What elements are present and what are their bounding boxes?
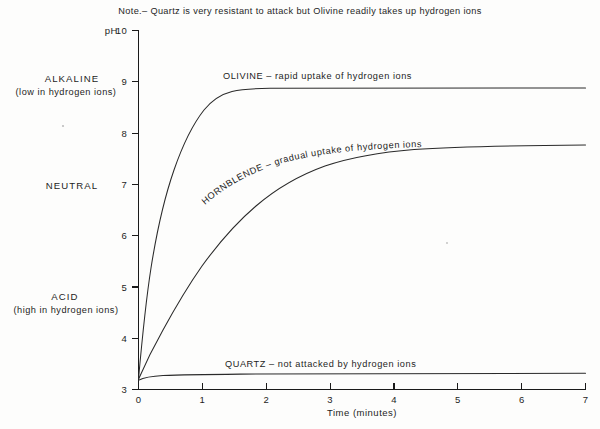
scan-speck bbox=[62, 125, 64, 127]
zone-label-neutral: NEUTRAL bbox=[46, 180, 98, 191]
zone-label-acid: ACID bbox=[51, 291, 78, 302]
curve-label-hornblende: HORNBLENDE – gradual uptake of hydrogen … bbox=[200, 139, 422, 207]
scan-speck bbox=[446, 242, 448, 244]
y-tick-label: 5 bbox=[121, 282, 127, 293]
curve-quartz bbox=[139, 373, 586, 380]
x-tick-label: 1 bbox=[200, 394, 206, 405]
y-ticks bbox=[132, 31, 139, 390]
x-tick-labels: 0 1 2 3 4 5 6 7 bbox=[136, 394, 589, 405]
curve-label-hornblende-textpath: HORNBLENDE – gradual uptake of hydrogen … bbox=[200, 139, 422, 207]
x-tick-label: 6 bbox=[519, 394, 525, 405]
curve-label-quartz: QUARTZ – not attacked by hydrogen ions bbox=[225, 359, 416, 369]
y-tick-label: 3 bbox=[121, 384, 127, 395]
zone-sublabel-alkaline: (low in hydrogen ions) bbox=[16, 87, 117, 97]
axes-group bbox=[132, 31, 586, 390]
x-tick-label: 3 bbox=[327, 394, 333, 405]
x-axis-title: Time (minutes) bbox=[327, 407, 397, 418]
y-tick-label: 6 bbox=[121, 230, 127, 241]
y-axis-unit-label: pH bbox=[105, 25, 118, 36]
y-tick-labels: 10 9 8 7 6 5 4 3 bbox=[116, 25, 127, 395]
chart-figure: Note.– Quartz is very resistant to attac… bbox=[0, 0, 600, 429]
curve-label-olivine: OLIVINE – rapid uptake of hydrogen ions bbox=[223, 71, 412, 81]
zone-sublabel-acid: (high in hydrogen ions) bbox=[14, 305, 119, 315]
x-tick-label: 5 bbox=[455, 394, 461, 405]
curves-group bbox=[139, 88, 586, 380]
y-tick-label: 4 bbox=[121, 333, 127, 344]
curve-olivine bbox=[139, 88, 586, 379]
chart-svg: 10 9 8 7 6 5 4 3 pH 0 1 2 3 4 5 6 7 Time… bbox=[0, 0, 600, 429]
x-tick-label: 7 bbox=[583, 394, 589, 405]
zone-label-alkaline: ALKALINE bbox=[45, 73, 100, 84]
y-tick-label: 9 bbox=[121, 76, 127, 87]
x-tick-label: 4 bbox=[391, 394, 397, 405]
curve-hornblende bbox=[139, 145, 586, 379]
x-tick-label: 2 bbox=[264, 394, 270, 405]
y-tick-label: 7 bbox=[121, 179, 127, 190]
x-ticks bbox=[139, 383, 586, 390]
zone-labels: ALKALINE (low in hydrogen ions) NEUTRAL … bbox=[14, 73, 119, 315]
y-tick-label: 8 bbox=[121, 128, 127, 139]
x-tick-label: 0 bbox=[136, 394, 142, 405]
